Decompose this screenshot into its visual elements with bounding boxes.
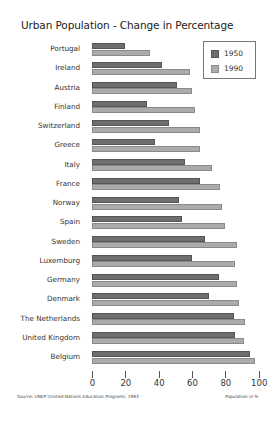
bar-finland-1990	[92, 107, 195, 113]
bar-france-1990	[92, 184, 220, 190]
x-axis-tick-label: 80	[220, 378, 231, 388]
category-label-italy: Italy	[64, 160, 80, 169]
chart-legend: 1950 1990	[203, 41, 256, 79]
bar-sweden-1990	[92, 242, 237, 248]
source-note: Source: UNEP (United Nations Education P…	[17, 394, 139, 399]
bar-portugal-1950	[92, 43, 125, 49]
bar-germany-1950	[92, 274, 219, 280]
bar-sweden-1950	[92, 236, 205, 242]
bar-belgium-1950	[92, 351, 250, 357]
bar-belgium-1990	[92, 358, 255, 364]
bar-norway-1950	[92, 197, 179, 203]
bar-italy-1990	[92, 165, 212, 171]
bar-switzerland-1990	[92, 127, 200, 133]
bar-united-kingdom-1950	[92, 332, 235, 338]
category-label-finland: Finland	[54, 102, 80, 111]
bar-the-netherlands-1990	[92, 319, 245, 325]
bar-norway-1990	[92, 204, 222, 210]
legend-label-1950: 1950	[224, 49, 243, 58]
bar-switzerland-1950	[92, 120, 169, 126]
category-label-portugal: Portugal	[50, 44, 80, 53]
bar-germany-1990	[92, 281, 237, 287]
bar-greece-1990	[92, 146, 200, 152]
legend-label-1990: 1990	[224, 64, 243, 73]
category-label-ireland: Ireland	[55, 63, 80, 72]
bar-ireland-1950	[92, 62, 162, 68]
x-axis-unit-label: Population in %	[225, 394, 258, 399]
legend-swatch-1990	[211, 65, 219, 73]
bar-italy-1950	[92, 159, 185, 165]
category-label-belgium: Belgium	[51, 352, 80, 361]
category-label-denmark: Denmark	[47, 294, 80, 303]
x-axis-tick-label: 40	[154, 378, 165, 388]
legend-item-1950: 1950	[211, 49, 243, 58]
category-label-the-netherlands: The Netherlands	[21, 314, 80, 323]
legend-item-1990: 1990	[211, 64, 243, 73]
category-label-sweden: Sweden	[52, 237, 80, 246]
bar-austria-1990	[92, 88, 192, 94]
bar-austria-1950	[92, 82, 177, 88]
x-axis-tick	[225, 371, 226, 378]
x-axis-tick	[259, 371, 260, 378]
bar-luxemburg-1950	[92, 255, 192, 261]
bar-denmark-1990	[92, 300, 239, 306]
bar-greece-1950	[92, 139, 155, 145]
bar-portugal-1990	[92, 50, 150, 56]
category-label-germany: Germany	[47, 275, 80, 284]
bar-ireland-1990	[92, 69, 190, 75]
x-axis-tick-label: 100	[251, 378, 267, 388]
category-label-greece: Greece	[54, 140, 80, 149]
x-axis-tick-label: 20	[120, 378, 131, 388]
bar-united-kingdom-1990	[92, 338, 244, 344]
legend-swatch-1950	[211, 50, 219, 58]
x-axis-tick	[125, 371, 126, 378]
bar-the-netherlands-1950	[92, 313, 234, 319]
bar-spain-1990	[92, 223, 225, 229]
bar-luxemburg-1990	[92, 261, 235, 267]
category-label-spain: Spain	[60, 217, 80, 226]
category-label-austria: Austria	[55, 83, 80, 92]
x-axis-tick-label: 60	[187, 378, 198, 388]
bar-spain-1950	[92, 216, 182, 222]
x-axis-tick	[192, 371, 193, 378]
x-axis-tick-label: 0	[90, 378, 95, 388]
category-label-france: France	[56, 179, 80, 188]
category-label-norway: Norway	[53, 198, 80, 207]
bar-finland-1950	[92, 101, 147, 107]
x-axis-tick	[159, 371, 160, 378]
x-axis-tick	[92, 371, 93, 378]
category-label-luxemburg: Luxemburg	[40, 256, 80, 265]
bar-denmark-1950	[92, 293, 209, 299]
bar-france-1950	[92, 178, 200, 184]
category-label-switzerland: Switzerland	[38, 121, 80, 130]
category-label-united-kingdom: United Kingdom	[22, 333, 80, 342]
